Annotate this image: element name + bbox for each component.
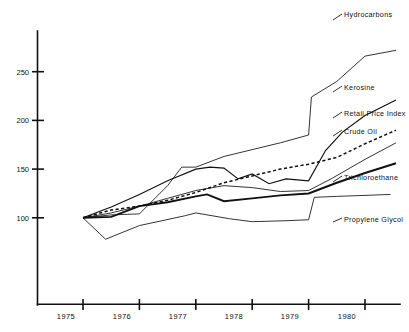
series-leader-crude-oil — [333, 130, 342, 136]
series-label-crude-oil: Crude Oil — [344, 127, 377, 136]
line-chart: 250 200 150 100 1975 1976 1977 1978 1979… — [0, 0, 409, 332]
series-leader-propylene-glycol — [333, 218, 342, 222]
y-tick-label-150: 150 — [16, 165, 29, 174]
x-tick-label-1980: 1980 — [338, 312, 356, 321]
x-tick-label-1976: 1976 — [113, 312, 131, 321]
series-label-propylene-glycol: Propylene Glycol — [344, 215, 403, 224]
x-tick-label-1977: 1977 — [169, 312, 187, 321]
chart-canvas: 250 200 150 100 1975 1976 1977 1978 1979… — [0, 0, 409, 332]
y-tick-label-100: 100 — [16, 214, 29, 223]
series-label-kerosine: Kerosine — [344, 83, 375, 92]
x-tick-label-1975: 1975 — [57, 312, 75, 321]
series-label-retail-price-index: Retail Price Index — [344, 109, 406, 118]
y-tick-label-250: 250 — [16, 68, 29, 77]
series-label-hydrocarbons: Hydrocarbons — [344, 10, 392, 19]
series-label-trichloroethane: Trichloroethane — [344, 173, 398, 182]
y-tick-label-200: 200 — [16, 116, 29, 125]
series-leader-retail-price-index — [333, 112, 342, 118]
series-line-trichloroethane — [83, 163, 396, 218]
x-tick-label-1979: 1979 — [281, 312, 299, 321]
x-tick-label-1978: 1978 — [225, 312, 243, 321]
series-leader-kerosine — [333, 86, 342, 92]
series-leader-hydrocarbons — [333, 14, 342, 20]
